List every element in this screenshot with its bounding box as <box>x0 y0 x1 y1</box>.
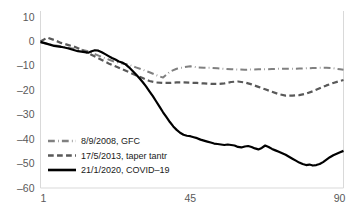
y-axis-tick-labels: 100–10–20–30–40–50–60 <box>17 11 35 194</box>
y-tick-label: –20 <box>17 84 35 96</box>
legend-label-0: 8/9/2008, GFC <box>81 136 141 146</box>
y-tick-label: –60 <box>17 182 35 194</box>
y-tick-label: 0 <box>29 35 35 47</box>
chart-canvas: 100–10–20–30–40–50–60 14590 8/9/2008, GF… <box>0 0 359 217</box>
y-tick-label: 10 <box>23 11 35 23</box>
y-tick-label: –40 <box>17 133 35 145</box>
y-tick-label: –10 <box>17 59 35 71</box>
series-lines <box>41 38 344 166</box>
series-line-1 <box>41 38 344 96</box>
x-axis-tick-labels: 14590 <box>41 192 346 204</box>
y-tick-label: –30 <box>17 108 35 120</box>
x-tick-label: 1 <box>41 192 47 204</box>
chart-legend: 8/9/2008, GFC17/5/2013, taper tantr21/1/… <box>48 136 170 175</box>
legend-label-2: 21/1/2020, COVID–19 <box>81 165 170 175</box>
x-tick-label: 45 <box>184 192 196 204</box>
series-line-0 <box>41 42 344 77</box>
legend-label-1: 17/5/2013, taper tantr <box>81 151 167 161</box>
x-tick-label: 90 <box>334 192 346 204</box>
line-chart: 100–10–20–30–40–50–60 14590 8/9/2008, GF… <box>0 0 359 217</box>
y-tick-label: –50 <box>17 157 35 169</box>
series-line-2 <box>41 42 344 166</box>
